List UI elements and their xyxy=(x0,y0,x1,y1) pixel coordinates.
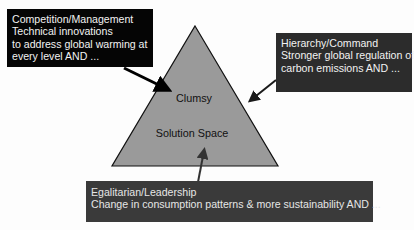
diagram-canvas: Clumsy Solution Space Competition/Manage… xyxy=(0,0,414,230)
box-title: Competition/Management xyxy=(12,13,148,25)
box-line: carbon emissions AND ... xyxy=(281,62,407,74)
box-line: Change in consumption patterns & more su… xyxy=(91,198,368,210)
box-line: to address global warming at xyxy=(12,38,148,50)
arrow-right-to-triangle xyxy=(251,80,276,100)
egalitarian-leadership-box: Egalitarian/Leadership Change in consump… xyxy=(86,181,373,222)
arrow-left-to-triangle xyxy=(124,68,167,89)
box-line: every level AND ... xyxy=(12,50,148,62)
box-line: Stronger global regulation of xyxy=(281,49,407,61)
box-line: Technical innovations xyxy=(12,25,148,37)
hierarchy-command-box: Hierarchy/Command Stronger global regula… xyxy=(276,33,412,92)
box-title: Hierarchy/Command xyxy=(281,37,407,49)
competition-management-box: Competition/Management Technical innovat… xyxy=(7,9,153,67)
triangle-label-clumsy: Clumsy xyxy=(176,92,212,104)
triangle-label-solution-space: Solution Space xyxy=(156,127,229,139)
box-title: Egalitarian/Leadership xyxy=(91,186,368,198)
